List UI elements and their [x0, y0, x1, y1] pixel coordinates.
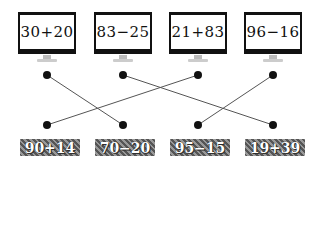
answer-label-3: 95−15 [170, 139, 230, 156]
connection-line [123, 75, 273, 125]
top-dot[interactable] [269, 71, 277, 79]
answer-label-4: 19+39 [245, 139, 305, 156]
answer-label-2: 70−20 [95, 139, 155, 156]
bottom-dot[interactable] [119, 121, 127, 129]
answer-label-1: 90+14 [20, 139, 80, 156]
top-dot[interactable] [119, 71, 127, 79]
top-dot[interactable] [194, 71, 202, 79]
top-dot[interactable] [43, 71, 51, 79]
connection-line [47, 75, 198, 125]
connection-line [47, 75, 123, 125]
bottom-dot[interactable] [43, 121, 51, 129]
bottom-dot[interactable] [194, 121, 202, 129]
bottom-dot[interactable] [269, 121, 277, 129]
connection-line [198, 75, 273, 125]
